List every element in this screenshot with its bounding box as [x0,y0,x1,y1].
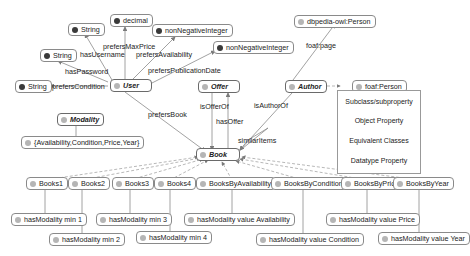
class-icon [188,217,194,223]
class-icon [116,181,122,187]
node-books-by-condition[interactable]: BooksByCondition [271,177,348,190]
edge-label-prefersbook: prefersBook [148,111,187,118]
edge-label-preferscondition: prefersCondition [52,83,105,90]
class-icon [260,237,266,243]
edge-label-haspassword: hasPassword [65,68,108,75]
legend-equivalent-classes: Equivalent Classes [338,137,420,144]
edge-label-similaritems: similarItems [238,137,276,144]
node-books3[interactable]: Books3 [112,177,154,190]
node-restriction-min2[interactable]: hasModality min 2 [49,233,125,246]
edge-label-preferspublicationdate: prefersPublicationDate [148,67,221,74]
node-dbpedia-person[interactable]: dbpedia-owl:Person [294,15,376,28]
node-restriction-min1[interactable]: hasModality min 1 [11,213,87,226]
node-restriction-year[interactable]: hasModality value Year [378,232,470,245]
node-book[interactable]: Book [196,148,240,161]
node-restriction-min3[interactable]: hasModality min 3 [96,213,172,226]
node-books4[interactable]: Books4 [154,177,196,190]
class-icon [114,83,120,89]
node-books-by-availability[interactable]: BooksByAvailability [196,177,276,190]
datatype-icon [156,28,162,34]
legend-object-property: Object Property [338,117,420,124]
class-icon [25,140,31,146]
node-books1[interactable]: Books1 [26,177,68,190]
node-modality[interactable]: Modality [57,113,104,126]
node-modality-values[interactable]: {Availability,Condition,Price,Year} [21,136,144,149]
node-restriction-price[interactable]: hasModality value Price [326,213,420,226]
class-icon [397,181,403,187]
class-icon [140,235,146,241]
node-restriction-condition[interactable]: hasModality value Condition [256,233,364,246]
datatype-icon [19,84,25,90]
node-author[interactable]: Author [285,80,327,93]
edge-label-isauthorof: isAuthorOf [254,102,288,109]
class-icon [382,236,388,242]
edge-label-hasoffer: hasOffer [216,118,243,125]
class-icon [289,84,295,90]
legend-datatype-property: Datatype Property [338,157,420,164]
class-icon [158,181,164,187]
class-icon [345,181,351,187]
datatype-icon [114,18,120,24]
datatype-icon [72,27,78,33]
legend-subclass: Subclass/subproperty [338,98,420,105]
class-icon [200,181,206,187]
node-user[interactable]: User [110,79,152,92]
class-icon [61,117,67,123]
node-nonnegative-pubdate[interactable]: nonNegativeInteger [213,41,294,54]
class-icon [15,217,21,223]
legend: Subclass/subproperty Object Property Equ… [337,90,421,174]
node-decimal[interactable]: decimal [110,14,153,27]
class-icon [202,84,208,90]
edge-label-isofferof: isOfferOf [200,103,229,110]
node-offer[interactable]: Offer [198,80,240,93]
node-books-by-year[interactable]: BooksByYear [393,177,454,190]
node-string-condition[interactable]: String [15,80,52,93]
class-icon [356,84,362,90]
class-icon [298,19,304,25]
node-string-username[interactable]: String [68,23,105,36]
node-string-password[interactable]: String [40,49,77,62]
node-restriction-min4[interactable]: hasModality min 4 [136,231,212,244]
class-icon [100,217,106,223]
edge-label-foafpage: foaf:page [306,42,336,49]
node-nonnegative-availability[interactable]: nonNegativeInteger [152,24,233,37]
class-icon [200,152,206,158]
class-icon [72,181,78,187]
node-books2[interactable]: Books2 [68,177,110,190]
class-icon [330,217,336,223]
class-icon [30,181,36,187]
edge-label-hasusername: hasUsername [80,51,125,58]
node-restriction-availability[interactable]: hasModality value Availability [184,213,295,226]
datatype-icon [217,45,223,51]
edge-label-prefersavailability: prefersAvailability [136,51,192,58]
class-icon [275,181,281,187]
datatype-icon [44,53,50,59]
class-icon [53,237,59,243]
